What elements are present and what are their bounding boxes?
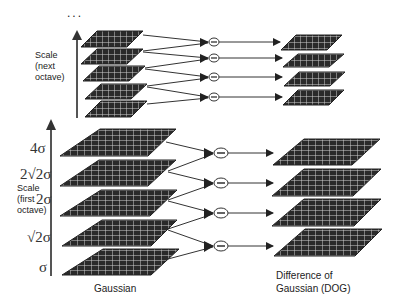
upper-axis-label-line2: (next xyxy=(35,61,65,72)
lower-axis-label: Scale (first octave) xyxy=(17,183,47,216)
upper-axis-label-line1: Scale xyxy=(35,50,65,61)
lower-minus-signs xyxy=(217,153,225,246)
sigma-tick-2root2: 2√2σ xyxy=(20,166,51,183)
upper-axis-arrowhead xyxy=(72,30,82,40)
dog-caption: Difference of Gaussian (DOG) xyxy=(276,269,350,295)
sigma-tick-root2: √2σ xyxy=(27,229,51,246)
upper-minus-circles xyxy=(209,38,219,101)
lower-axis-arrowhead xyxy=(46,119,56,130)
dog-caption-line2: Gaussian (DOG) xyxy=(276,282,350,295)
gaussian-caption: Gaussian xyxy=(94,282,136,295)
upper-axis-label-line3: octave) xyxy=(35,72,65,83)
lower-output-arrows xyxy=(228,153,273,246)
continuation-dots: ... xyxy=(67,6,83,20)
lower-minus-circles xyxy=(214,148,228,251)
upper-gaussian-stack xyxy=(81,31,147,117)
lower-axis-label-line3: octave) xyxy=(17,205,47,216)
upper-connectors xyxy=(143,35,208,104)
dog-caption-line1: Difference of xyxy=(276,269,350,282)
upper-output-arrows xyxy=(219,42,282,97)
lower-axis-label-line1: Scale xyxy=(17,183,47,194)
dog-diagram xyxy=(0,0,398,306)
upper-merge-arrows xyxy=(200,38,209,102)
lower-gaussian-stack xyxy=(60,129,179,275)
sigma-tick-4: 4σ xyxy=(30,140,46,157)
upper-axis-label: Scale (next octave) xyxy=(35,50,65,83)
lower-dog-stack xyxy=(272,139,382,256)
lower-merge-arrows xyxy=(204,148,214,252)
upper-minus-signs xyxy=(211,42,217,97)
sigma-tick-1: σ xyxy=(39,259,47,276)
lower-axis-label-line2: (first xyxy=(17,194,47,205)
upper-dog-stack xyxy=(281,35,345,105)
